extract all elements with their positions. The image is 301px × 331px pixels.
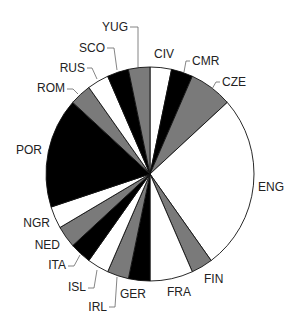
slice-label-rom: ROM xyxy=(37,81,65,95)
slice-label-irl: IRL xyxy=(88,300,107,314)
leader-line-irl xyxy=(109,277,117,307)
leader-line-cmr xyxy=(184,61,190,72)
slice-label-ned: NED xyxy=(35,238,61,252)
slice-label-sco: SCO xyxy=(79,41,105,55)
slice-label-fin: FIN xyxy=(204,272,223,286)
slice-label-yug: YUG xyxy=(102,20,128,34)
pie-slices xyxy=(46,67,254,281)
slice-label-cze: CZE xyxy=(222,75,246,89)
leader-line-rus xyxy=(87,68,97,79)
slice-label-eng: ENG xyxy=(258,180,284,194)
slice-label-civ: CIV xyxy=(154,47,174,61)
leader-line-ita xyxy=(68,255,80,266)
slice-label-ita: ITA xyxy=(48,258,66,272)
slice-label-ngr: NGR xyxy=(23,216,50,230)
slice-label-fra: FRA xyxy=(167,285,191,299)
slice-label-isl: ISL xyxy=(68,280,86,294)
slice-label-ger: GER xyxy=(120,287,146,301)
pie-chart: CIVCMRCZEENGFINFRAGERIRLISLITANEDNGRPORR… xyxy=(0,0,301,331)
leader-line-sco xyxy=(107,48,117,70)
leader-line-rom xyxy=(67,89,78,94)
leader-line-isl xyxy=(88,270,97,288)
slice-label-rus: RUS xyxy=(60,61,85,75)
slice-label-por: POR xyxy=(16,143,42,157)
leader-line-yug xyxy=(130,27,138,67)
leader-line-cze xyxy=(212,82,220,89)
slice-label-cmr: CMR xyxy=(192,54,220,68)
